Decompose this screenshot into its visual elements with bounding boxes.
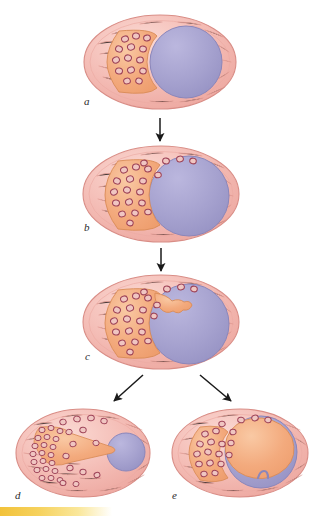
panel-a <box>84 15 236 109</box>
panel-label-c: c <box>85 350 90 362</box>
panel-label-e: e <box>172 489 177 501</box>
panel-d <box>16 409 150 497</box>
panel-label-a: a <box>84 95 90 107</box>
panel-e-blood-clot <box>225 418 294 479</box>
arrow-c-e <box>200 375 231 401</box>
panel-e <box>172 409 308 497</box>
figure-canvas: a b c d e <box>0 0 320 520</box>
footer-gold-bar <box>0 507 112 516</box>
panel-label-d: d <box>15 489 21 501</box>
panel-a-antrum <box>150 26 222 98</box>
panel-label-b: b <box>84 221 90 233</box>
panel-c <box>83 275 239 369</box>
follicle-development-diagram <box>0 0 320 520</box>
arrow-c-d <box>114 375 143 401</box>
panel-b <box>83 146 239 242</box>
panel-b-antrum <box>149 156 229 236</box>
